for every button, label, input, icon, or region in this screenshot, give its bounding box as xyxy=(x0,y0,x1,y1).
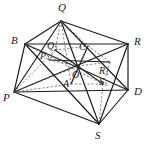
edge-P-S xyxy=(14,92,99,124)
label-S1-subscript: 1 xyxy=(104,80,107,87)
label-Q: Q xyxy=(58,2,66,13)
label-S-text: S xyxy=(95,129,101,141)
label-B: B xyxy=(11,35,18,46)
edge-B-P xyxy=(14,44,25,92)
label-O: O xyxy=(72,70,79,80)
label-R-text: R xyxy=(134,35,141,47)
label-O-text: O xyxy=(72,69,79,80)
label-R1-subscript: 1 xyxy=(105,69,108,76)
hidden-dashed-edges-group xyxy=(14,21,110,124)
label-C-text: C xyxy=(79,41,86,52)
label-C: C xyxy=(79,42,86,52)
label-P: P xyxy=(3,92,10,103)
vertex-dot-O xyxy=(77,65,79,67)
label-A-text: A xyxy=(63,78,69,89)
solid-edges-group xyxy=(14,21,128,124)
label-P1-subscript: 1 xyxy=(46,54,49,61)
label-B-text: B xyxy=(11,34,18,46)
label-D: D xyxy=(134,86,142,97)
label-D-text: D xyxy=(134,85,142,97)
label-R: R xyxy=(134,36,141,47)
label-Q1-subscript: 1 xyxy=(55,44,58,51)
label-Q-text: Q xyxy=(58,1,66,13)
edge-D-S xyxy=(99,90,128,124)
label-P-text: P xyxy=(3,91,10,103)
label-S: S xyxy=(95,130,101,141)
edge-Q-R xyxy=(61,21,128,44)
vertex-dots-group xyxy=(77,65,79,67)
label-A: A xyxy=(63,79,69,89)
label-S1: S1 xyxy=(99,77,108,88)
label-P1: P1 xyxy=(40,51,50,62)
label-Q1-text: Q xyxy=(47,40,54,51)
